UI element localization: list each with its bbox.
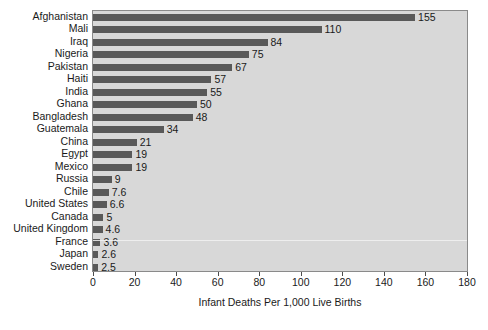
- bar-value-label: 5: [106, 211, 112, 224]
- bar: [93, 14, 415, 21]
- bar-row: 5: [93, 211, 467, 224]
- bar-value-label: 2.6: [101, 248, 116, 261]
- bar: [93, 226, 103, 233]
- x-tick-label: 140: [375, 276, 393, 288]
- bar: [93, 251, 98, 258]
- bar-row: 50: [93, 98, 467, 111]
- bar-value-label: 7.6: [112, 186, 127, 199]
- bar: [93, 214, 103, 221]
- bar-row: 75: [93, 48, 467, 61]
- bar: [93, 189, 109, 196]
- bar: [93, 201, 107, 208]
- category-label: Iraq: [70, 35, 88, 48]
- bar-value-label: 155: [418, 11, 436, 24]
- bar-value-label: 19: [135, 148, 147, 161]
- bar: [93, 51, 249, 58]
- x-tick-label: 120: [334, 276, 352, 288]
- bar-row: 48: [93, 111, 467, 124]
- x-tick-label: 60: [212, 276, 224, 288]
- bar-row: 21: [93, 136, 467, 149]
- x-tick-label: 0: [90, 276, 96, 288]
- bar-row: 3.6: [93, 236, 467, 249]
- category-label: Chile: [64, 185, 88, 198]
- category-label: Mexico: [55, 160, 88, 173]
- bar-value-label: 21: [140, 136, 152, 149]
- bar-value-label: 84: [271, 36, 283, 49]
- bar-value-label: 19: [135, 161, 147, 174]
- bar-row: 7.6: [93, 186, 467, 199]
- bar-row: 4.6: [93, 223, 467, 236]
- bar: [93, 164, 132, 171]
- bar: [93, 264, 98, 271]
- category-label: Egypt: [61, 147, 88, 160]
- bar-row: 55: [93, 86, 467, 99]
- bar-value-label: 75: [252, 48, 264, 61]
- category-label: Guatemala: [37, 122, 88, 135]
- bar-row: 2.6: [93, 248, 467, 261]
- bar-row: 57: [93, 73, 467, 86]
- category-label: Canada: [51, 210, 88, 223]
- category-label: Haiti: [67, 72, 88, 85]
- bar-row: 110: [93, 23, 467, 36]
- category-label: Ghana: [56, 97, 88, 110]
- x-axis-title: Infant Deaths Per 1,000 Live Births: [92, 296, 468, 308]
- category-label: Nigeria: [55, 47, 88, 60]
- bar-value-label: 110: [325, 23, 342, 36]
- bar-value-label: 6.6: [110, 198, 125, 211]
- bar: [93, 176, 112, 183]
- bar: [93, 26, 322, 33]
- bar-value-label: 67: [235, 61, 247, 74]
- plot-area: 155110847567575550483421191997.66.654.63…: [92, 10, 468, 272]
- bar-row: 19: [93, 161, 467, 174]
- x-tick-label: 180: [458, 276, 476, 288]
- bar: [93, 76, 211, 83]
- category-label: Mali: [69, 22, 88, 35]
- x-tick-label: 100: [292, 276, 310, 288]
- category-label: Russia: [56, 172, 88, 185]
- infant-mortality-bar-chart: AfghanistanMaliIraqNigeriaPakistanHaitiI…: [0, 0, 488, 330]
- bar-value-label: 48: [196, 111, 208, 124]
- bar: [93, 39, 268, 46]
- bar-row: 155: [93, 11, 467, 24]
- plot-inner: 155110847567575550483421191997.66.654.63…: [93, 11, 467, 271]
- bar: [93, 126, 164, 133]
- bar-value-label: 34: [167, 123, 179, 136]
- bar: [93, 64, 232, 71]
- bar-row: 67: [93, 61, 467, 74]
- category-axis: AfghanistanMaliIraqNigeriaPakistanHaitiI…: [0, 10, 90, 272]
- bar-row: 84: [93, 36, 467, 49]
- bar-value-label: 3.6: [103, 236, 118, 249]
- x-tick-label: 20: [129, 276, 141, 288]
- bar-row: 34: [93, 123, 467, 136]
- category-label: France: [55, 235, 88, 248]
- bar: [93, 114, 193, 121]
- bar: [93, 139, 137, 146]
- bar-value-label: 9: [115, 173, 121, 186]
- category-label: United Kingdom: [13, 222, 88, 235]
- category-label: China: [61, 135, 88, 148]
- category-label: Afghanistan: [33, 10, 88, 23]
- bar-row: 6.6: [93, 198, 467, 211]
- bar-value-label: 50: [200, 98, 212, 111]
- category-label: Sweden: [50, 260, 88, 273]
- bar-value-label: 57: [214, 73, 226, 86]
- plot-artifact-line: [93, 240, 467, 241]
- bar: [93, 151, 132, 158]
- bar-row: 9: [93, 173, 467, 186]
- x-tick-label: 160: [417, 276, 435, 288]
- bar-value-label: 4.6: [106, 223, 121, 236]
- x-axis: 020406080100120140160180: [92, 272, 468, 294]
- bar-value-label: 55: [210, 86, 222, 99]
- category-label: Japan: [59, 247, 88, 260]
- bar: [93, 89, 207, 96]
- bar-row: 19: [93, 148, 467, 161]
- category-label: Pakistan: [48, 60, 88, 73]
- category-label: United States: [25, 197, 88, 210]
- category-label: Bangladesh: [33, 110, 88, 123]
- category-label: India: [65, 85, 88, 98]
- bar: [93, 101, 197, 108]
- x-tick-label: 40: [170, 276, 182, 288]
- x-tick-label: 80: [253, 276, 265, 288]
